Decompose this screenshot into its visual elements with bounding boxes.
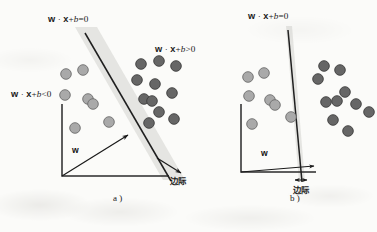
panel-a-w-vector-label: w (72, 145, 79, 155)
panel-a-boundary-equation: w · x+b=0 (48, 14, 88, 24)
panel-b-axes (241, 104, 316, 172)
panel-b-w-vector-label: w (261, 148, 268, 158)
panel-a-caption: a ) (113, 193, 122, 203)
panel-a-negative-region-label: w · x+b<0 (11, 89, 51, 99)
panel-b-caption: b ) (290, 193, 300, 203)
svm-margin-diagram (0, 0, 377, 232)
panel-a-margin-label: 边际 (170, 174, 186, 186)
panel-b-class-positive (313, 61, 375, 137)
panel-a-w-vector (62, 135, 128, 176)
panel-b-hyperplane (288, 30, 302, 182)
figure-canvas: w · x+b=0 w · x+b>0 w · x+b<0 w · x+b=0 … (0, 0, 377, 232)
panel-a-positive-region-label: w · x+b>0 (155, 44, 195, 54)
panel-b (241, 26, 374, 182)
panel-b-boundary-equation: w · x+b=0 (248, 11, 288, 21)
panel-b-class-negative (243, 68, 297, 130)
